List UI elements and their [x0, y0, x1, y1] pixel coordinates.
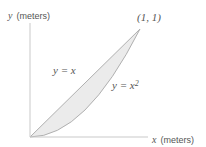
y-axis-label: y (meters) — [8, 6, 50, 22]
upper-curve-label: y = x — [53, 61, 76, 77]
x-axis-variable: x — [152, 134, 156, 145]
point-coordinates: (1, 1) — [137, 11, 161, 23]
area-between-curves-figure: y (meters) (1, 1) y = x y = x2 x (meters… — [0, 0, 206, 147]
lower-curve-equation: y = x — [112, 79, 135, 91]
lower-curve-label: y = x2 — [112, 76, 139, 92]
x-axis-label: x (meters) — [152, 130, 194, 146]
point-label: (1, 1) — [137, 8, 161, 24]
y-axis-unit: (meters) — [16, 11, 50, 21]
lower-curve-exponent: 2 — [135, 79, 139, 88]
upper-curve-equation: y = x — [53, 64, 76, 76]
x-axis-unit: (meters) — [160, 135, 194, 145]
plot-canvas — [0, 0, 206, 147]
y-axis-variable: y — [8, 10, 12, 21]
